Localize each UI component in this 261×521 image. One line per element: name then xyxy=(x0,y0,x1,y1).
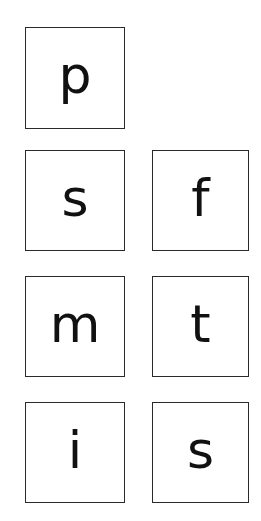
letter: m xyxy=(50,298,101,350)
letter: f xyxy=(191,172,209,224)
letter: i xyxy=(68,424,82,476)
letter-card-s: s xyxy=(25,150,125,251)
letter-card-s2: s xyxy=(152,402,249,503)
letter: s xyxy=(61,172,88,224)
letter: p xyxy=(58,49,91,101)
letter-card-t: t xyxy=(152,276,249,377)
letter-card-m: m xyxy=(25,276,125,377)
letter-card-f: f xyxy=(152,150,249,251)
letter-card-i: i xyxy=(25,402,125,503)
letter-card-p: p xyxy=(25,27,125,129)
letter: s xyxy=(187,424,214,476)
letter: t xyxy=(190,298,210,350)
